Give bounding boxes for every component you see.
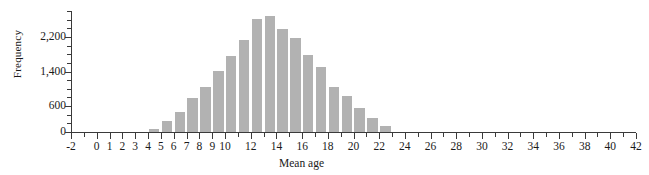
x-axis-tick-label: 20 — [348, 141, 360, 153]
histogram-bar — [303, 55, 313, 132]
x-axis-minor-tick — [418, 133, 419, 137]
x-axis-major-tick — [610, 133, 611, 139]
x-axis-tick-label: 34 — [528, 141, 540, 153]
x-axis-tick-label: 7 — [184, 141, 190, 153]
x-axis-tick-label: 42 — [630, 141, 642, 153]
histogram-bar — [213, 71, 223, 132]
x-axis-major-tick — [212, 133, 213, 139]
histogram-bar — [277, 29, 287, 132]
x-axis-major-tick — [636, 133, 637, 139]
x-axis-tick-label: 9 — [209, 141, 215, 153]
x-axis-tick-label: 32 — [502, 141, 514, 153]
x-axis-major-tick — [431, 133, 432, 139]
histogram-bar — [187, 98, 197, 132]
x-axis-minor-tick — [520, 133, 521, 137]
x-axis-tick-label: 26 — [425, 141, 437, 153]
histogram-bar — [252, 19, 262, 132]
x-axis-tick-label: 8 — [197, 141, 203, 153]
x-axis-tick-label: 6 — [171, 141, 177, 153]
x-axis-tick-label: 12 — [245, 141, 257, 153]
x-axis-major-tick — [379, 133, 380, 139]
x-axis-title: Mean age — [0, 157, 649, 169]
x-axis-major-tick — [585, 133, 586, 139]
x-axis-major-tick — [405, 133, 406, 139]
histogram-bar — [342, 96, 352, 132]
x-axis-major-tick — [276, 133, 277, 139]
histogram-bar — [354, 108, 364, 132]
x-axis-tick-label: 40 — [605, 141, 617, 153]
x-axis-major-tick — [456, 133, 457, 139]
x-axis-major-tick — [354, 133, 355, 139]
x-axis-major-tick — [508, 133, 509, 139]
histogram-bar — [367, 118, 377, 132]
histogram-bar — [239, 40, 249, 132]
x-axis-minor-tick — [264, 133, 265, 137]
x-axis-minor-tick — [546, 133, 547, 137]
x-axis-minor-tick — [289, 133, 290, 137]
x-axis-tick-label: 4 — [145, 141, 151, 153]
histogram-bar — [226, 56, 236, 132]
x-axis-minor-tick — [84, 133, 85, 137]
x-axis-major-tick — [148, 133, 149, 139]
x-axis-minor-tick — [469, 133, 470, 137]
x-axis-tick-label: 22 — [373, 141, 385, 153]
x-axis-major-tick — [328, 133, 329, 139]
x-axis-tick-label: 18 — [322, 141, 334, 153]
x-axis-major-tick — [559, 133, 560, 139]
histogram-figure: Frequency 06001,4002,200 -20123456789101… — [0, 0, 649, 175]
x-axis-tick-label: 24 — [399, 141, 411, 153]
x-axis-minor-tick — [392, 133, 393, 137]
x-axis-tick-label: 36 — [553, 141, 565, 153]
histogram-bar — [200, 87, 210, 132]
x-axis-major-tick — [482, 133, 483, 139]
histogram-bar — [265, 16, 275, 132]
x-axis-tick-label: -2 — [66, 141, 76, 153]
histogram-bar — [316, 67, 326, 132]
x-axis-major-tick — [199, 133, 200, 139]
histogram-bar — [162, 121, 172, 132]
x-axis-minor-tick — [341, 133, 342, 137]
x-axis-minor-tick — [315, 133, 316, 137]
histogram-bar — [329, 87, 339, 132]
x-axis-tick-label: 30 — [476, 141, 488, 153]
x-axis-minor-tick — [238, 133, 239, 137]
x-axis-major-tick — [135, 133, 136, 139]
x-axis-major-tick — [302, 133, 303, 139]
x-axis-major-tick — [97, 133, 98, 139]
x-axis-tick-label: 28 — [450, 141, 462, 153]
x-axis-major-tick — [187, 133, 188, 139]
x-axis-title-text: Mean age — [279, 157, 324, 169]
x-axis-major-tick — [251, 133, 252, 139]
x-axis-tick-label: 10 — [219, 141, 231, 153]
x-axis-minor-tick — [495, 133, 496, 137]
x-axis-major-tick — [174, 133, 175, 139]
histogram-bar — [290, 38, 300, 132]
x-axis-major-tick — [533, 133, 534, 139]
x-axis-major-tick — [71, 133, 72, 139]
x-axis-minor-tick — [623, 133, 624, 137]
x-axis-tick-label: 2 — [119, 141, 125, 153]
x-axis-minor-tick — [597, 133, 598, 137]
x-axis-minor-tick — [572, 133, 573, 137]
x-axis-major-tick — [122, 133, 123, 139]
x-axis-minor-tick — [443, 133, 444, 137]
x-axis-major-tick — [161, 133, 162, 139]
x-axis-major-tick — [225, 133, 226, 139]
x-axis-tick-label: 3 — [132, 141, 138, 153]
x-axis-tick-label: 0 — [94, 141, 100, 153]
x-axis-tick-label: 1 — [107, 141, 113, 153]
x-axis-minor-tick — [366, 133, 367, 137]
x-axis-tick-label: 38 — [579, 141, 591, 153]
x-axis-tick-label: 16 — [296, 141, 308, 153]
histogram-bar — [175, 112, 185, 132]
x-axis-major-tick — [110, 133, 111, 139]
x-axis-tick-label: 14 — [271, 141, 283, 153]
x-axis-tick-label: 5 — [158, 141, 164, 153]
